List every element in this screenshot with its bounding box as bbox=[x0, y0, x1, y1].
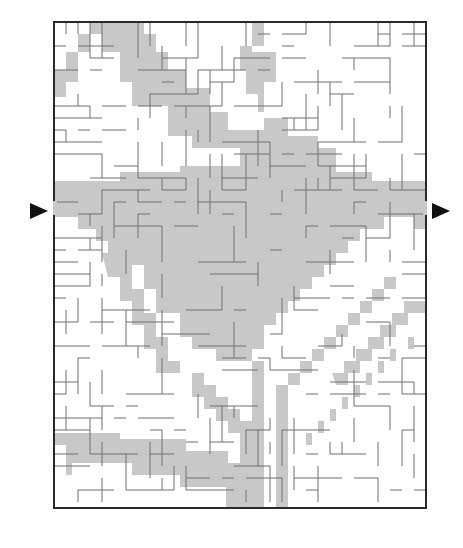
entry-arrow-icon bbox=[30, 203, 48, 219]
maze-puzzle: Maze puzzle bbox=[0, 0, 463, 548]
exit-gap bbox=[423, 201, 427, 215]
maze-canvas bbox=[0, 0, 463, 548]
entry-gap bbox=[53, 201, 57, 215]
shaded-regions bbox=[54, 22, 426, 508]
exit-arrow-icon bbox=[432, 203, 450, 219]
